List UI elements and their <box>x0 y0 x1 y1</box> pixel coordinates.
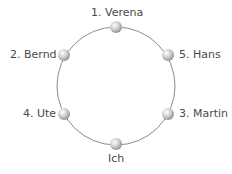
seat-node-bernd <box>58 49 70 61</box>
seat-node-ute <box>58 108 70 120</box>
label-verena: 1. Verena <box>91 6 143 19</box>
seat-node-martin <box>162 108 174 120</box>
seat-node-hans <box>162 49 174 61</box>
seating-diagram <box>0 0 232 174</box>
label-bernd: 2. Bernd <box>10 48 57 61</box>
seat-node-ich <box>110 138 122 150</box>
seat-node-verena <box>110 21 122 33</box>
label-martin: 3. Martin <box>179 107 228 120</box>
table-circle <box>57 27 175 145</box>
label-ute: 4. Ute <box>23 107 56 120</box>
label-ich: Ich <box>108 152 124 165</box>
label-hans: 5. Hans <box>179 48 221 61</box>
